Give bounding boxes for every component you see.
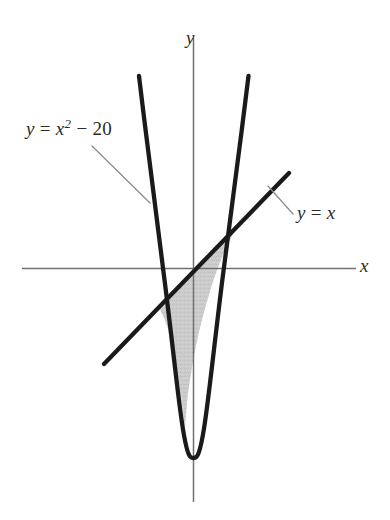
line-equation-label: y = x: [297, 203, 336, 222]
x-axis-label: x: [360, 256, 368, 275]
parabola-equals: =: [35, 118, 56, 139]
leader-line-parabola: [92, 146, 150, 203]
math-figure: y = x2 − 20 y = x y x: [0, 0, 390, 520]
line-rhs: x: [327, 202, 336, 223]
leader-lines-group: [92, 146, 293, 214]
leader-line-y-equals-x: [268, 186, 293, 214]
y-axis-label: y: [186, 28, 194, 47]
parabola-lhs: y: [26, 118, 35, 139]
parabola-equation-label: y = x2 − 20: [26, 118, 112, 138]
axes-group: [22, 38, 356, 502]
line-lhs: y: [297, 202, 306, 223]
parabola-constant: 20: [92, 118, 112, 139]
parabola-base: x: [56, 118, 65, 139]
line-equals: =: [306, 202, 327, 223]
parabola-minus: −: [71, 118, 92, 139]
graph-canvas: [0, 0, 390, 520]
